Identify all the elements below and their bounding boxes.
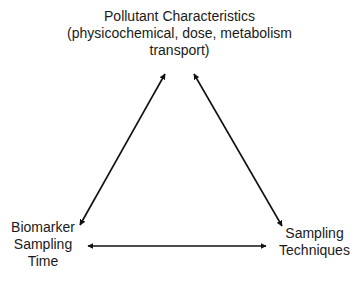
- double-arrow-top-right: [194, 74, 282, 226]
- arrows-layer: [0, 0, 359, 283]
- double-arrow-top-left: [80, 74, 165, 225]
